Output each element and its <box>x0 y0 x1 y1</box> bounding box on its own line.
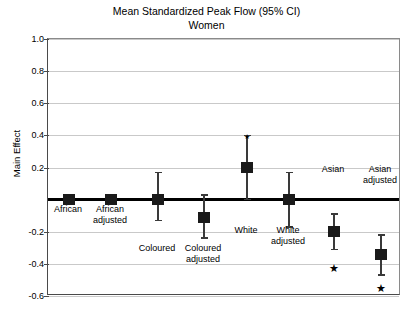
y-axis-tick <box>44 39 49 40</box>
data-point-marker[interactable] <box>375 249 387 260</box>
y-axis-tick <box>44 264 49 265</box>
significance-star: ★ <box>376 283 385 294</box>
y-axis-tick <box>44 296 49 297</box>
data-point-marker[interactable] <box>283 194 295 205</box>
chart-root: Mean Standardized Peak Flow (95% CI) Wom… <box>0 0 413 310</box>
category-label: Africanadjusted <box>76 204 144 225</box>
y-axis-tick-label: -0.6 <box>10 292 44 301</box>
error-bar-cap <box>155 172 162 174</box>
category-label-line: White <box>254 225 322 236</box>
category-label-line: adjusted <box>346 175 413 186</box>
category-label-line: African <box>76 204 144 215</box>
error-bar-cap <box>286 172 293 174</box>
category-label: Colouredadjusted <box>169 243 237 264</box>
error-bar-cap <box>378 274 385 276</box>
y-axis-tick <box>44 168 49 169</box>
error-bar-cap <box>378 234 385 236</box>
data-point-marker[interactable] <box>152 194 164 205</box>
error-bar-cap <box>201 237 208 239</box>
error-bar-cap <box>244 199 251 201</box>
data-point-marker[interactable] <box>328 226 340 237</box>
chart-subtitle: Women <box>0 18 413 32</box>
category-label: Asianadjusted <box>346 164 413 185</box>
category-label-line: adjusted <box>76 215 144 226</box>
data-point-group[interactable] <box>279 39 299 296</box>
y-axis-tick-label: 0.2 <box>10 164 44 173</box>
y-gridline <box>48 296 399 297</box>
category-label-line: Coloured <box>169 243 237 254</box>
y-axis-tick <box>44 71 49 72</box>
category-label-line: adjusted <box>169 254 237 265</box>
error-bar-cap <box>331 249 338 251</box>
error-bar-cap <box>201 194 208 196</box>
significance-star: ★ <box>242 131 251 142</box>
y-axis-tick-label: 0.6 <box>10 99 44 108</box>
data-point-group[interactable] <box>148 39 168 296</box>
category-label: Whiteadjusted <box>254 225 322 246</box>
data-point-group[interactable] <box>59 39 79 296</box>
category-label-line: adjusted <box>254 236 322 247</box>
y-axis-tick <box>44 103 49 104</box>
data-point-marker[interactable] <box>241 162 253 173</box>
y-axis-tick-label: 1.0 <box>10 35 44 44</box>
y-axis-tick-label: 0.4 <box>10 131 44 140</box>
y-axis-tick <box>44 135 49 136</box>
error-bar-cap <box>331 213 338 215</box>
error-bar-cap <box>155 220 162 222</box>
y-axis-tick-label: 0.8 <box>10 67 44 76</box>
chart-title: Mean Standardized Peak Flow (95% CI) <box>0 4 413 18</box>
significance-star: ★ <box>329 263 338 274</box>
y-axis-tick-label: -0.2 <box>10 228 44 237</box>
data-point-marker[interactable] <box>198 212 210 223</box>
y-axis-label: Main Effect <box>11 114 22 194</box>
data-point-group[interactable] <box>101 39 121 296</box>
category-label-line: Asian <box>346 164 413 175</box>
chart-title-block: Mean Standardized Peak Flow (95% CI) Wom… <box>0 4 413 32</box>
data-point-group[interactable] <box>237 39 257 296</box>
y-axis-tick-label: -0.4 <box>10 260 44 269</box>
y-axis-tick <box>44 232 49 233</box>
